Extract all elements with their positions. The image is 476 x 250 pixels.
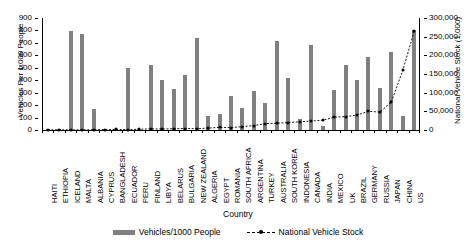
line-marker (69, 128, 72, 131)
x-label-australia: AUSTRALIA (280, 161, 288, 203)
line-marker (81, 128, 84, 131)
y-tick-right (424, 37, 427, 38)
x-label-belarus: BELARUS (177, 168, 185, 203)
x-label-finland: FINLAND (154, 171, 162, 203)
y-tick-label-right: 0 (429, 126, 433, 134)
x-label-bangladesh: BANGLADESH (119, 152, 127, 203)
x-axis-title: Country (0, 209, 476, 219)
line-marker (58, 128, 61, 131)
y-tick-left (35, 55, 38, 56)
legend-item-bars: Vehicles/1000 People (113, 227, 221, 237)
y-tick-right (424, 55, 427, 56)
y-tick-label-left: 900 (19, 14, 32, 22)
line-marker (115, 128, 118, 131)
line-marker (230, 126, 233, 129)
x-label-germany: GERMANY (371, 165, 379, 203)
y-tick-label-right: 100,000 (429, 89, 458, 97)
x-label-egypt: EGYPT (223, 178, 231, 203)
line-marker (344, 115, 347, 118)
line-marker (126, 128, 129, 131)
x-label-brazil: BRAZIL (360, 177, 368, 203)
x-label-turkey: TURKEY (268, 173, 276, 203)
line-marker (321, 119, 324, 122)
y-tick-left (35, 30, 38, 31)
plot-area (42, 18, 420, 130)
x-label-us: US (417, 193, 425, 203)
y-tick-left (35, 105, 38, 106)
line-marker (207, 127, 210, 130)
x-label-albania: ALBANIA (97, 171, 105, 203)
y-tick-label-right: 300,000 (429, 14, 458, 22)
legend-bar-label: Vehicles/1000 People (139, 227, 221, 237)
line-marker (310, 120, 313, 123)
x-label-ecuador: ECUADOR (131, 165, 139, 203)
line-marker (356, 114, 359, 117)
x-label-malta: MALTA (85, 179, 93, 203)
x-label-algeria: ALGERIA (211, 170, 219, 203)
legend-line-swatch (247, 229, 275, 236)
x-axis-category-labels: HAITIETHIOPIAICELANDMALTAALBANIACYPRUSBA… (42, 133, 420, 207)
line-marker (413, 30, 416, 33)
y-tick-label-left: 800 (19, 26, 32, 34)
y-tick-label-right: 50,000 (429, 107, 453, 115)
line-marker (275, 122, 278, 125)
y-tick-left (35, 80, 38, 81)
y-tick-left (35, 68, 38, 69)
y-tick-right (424, 74, 427, 75)
x-label-iceland: ICELAND (74, 170, 82, 203)
line-marker (161, 128, 164, 131)
line-marker (287, 121, 290, 124)
y-tick-right (424, 130, 427, 131)
y-tick-right (424, 93, 427, 94)
y-tick-label-right: 150,000 (429, 70, 458, 78)
x-label-indonesia: INDONESIA (303, 162, 311, 203)
chart-legend: Vehicles/1000 People National Vehicle St… (0, 227, 476, 237)
y-axis-left-ticks: 0100200300400500600700800900 (0, 18, 38, 130)
line-marker (218, 126, 221, 129)
x-label-canada: CANADA (314, 172, 322, 203)
legend-item-line: National Vehicle Stock (247, 227, 364, 237)
line-marker (378, 111, 381, 114)
x-label-south-africa: SOUTH AFRICA (245, 148, 253, 203)
x-label-peru: PERU (142, 182, 150, 203)
x-label-ethiopia: ETHIOPIA (62, 168, 70, 203)
x-label-india: INDIA (326, 183, 334, 203)
legend-line-label: National Vehicle Stock (279, 227, 364, 237)
y-tick-label-left: 700 (19, 39, 32, 47)
y-tick-label-right: 200,000 (429, 51, 458, 59)
y-axis-right-ticks: 050,000100,000150,000200,000250,000300,0… (424, 18, 474, 130)
legend-bar-swatch (113, 230, 135, 235)
y-tick-label-right: 250,000 (429, 33, 458, 41)
x-label-south-korea: SOUTH KOREA (291, 148, 299, 203)
line-marker (367, 110, 370, 113)
vehicle-ownership-chart: Vehicles Per 1,000 People National Vehic… (0, 0, 476, 250)
line-series (42, 18, 420, 130)
line-marker (104, 128, 107, 131)
line-marker (298, 120, 301, 123)
x-label-cyprus: CYPRUS (108, 172, 116, 203)
x-label-mexico: MEXICO (337, 173, 345, 203)
y-tick-right (424, 18, 427, 19)
line-marker (172, 127, 175, 130)
y-tick-left (35, 93, 38, 94)
x-label-argentina: ARGENTINA (257, 159, 265, 203)
y-tick-label-left: 500 (19, 64, 32, 72)
x-label-haiti: HAITI (51, 184, 59, 203)
y-tick-label-left: 0 (28, 126, 32, 134)
x-label-bulgaria: BULGARIA (188, 165, 196, 203)
y-tick-label-left: 100 (19, 114, 32, 122)
y-tick-label-left: 200 (19, 101, 32, 109)
y-tick-left (35, 43, 38, 44)
y-tick-label-left: 400 (19, 76, 32, 84)
y-tick-left (35, 18, 38, 19)
x-label-new-zealand: NEW ZEALAND (200, 149, 208, 203)
y-tick-right (424, 111, 427, 112)
line-marker (195, 127, 198, 130)
line-marker (401, 69, 404, 72)
x-label-russia: RUSSIA (383, 175, 391, 203)
y-tick-label-left: 300 (19, 89, 32, 97)
line-marker (149, 127, 152, 130)
line-marker (390, 101, 393, 104)
line-marker (241, 125, 244, 128)
x-label-uk: UK (349, 193, 357, 203)
